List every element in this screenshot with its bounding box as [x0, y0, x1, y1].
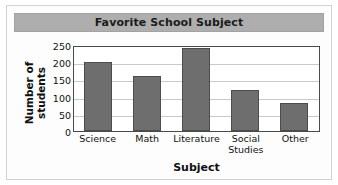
- y-tick-label: 0: [47, 128, 71, 137]
- y-tick-label: 200: [47, 59, 71, 68]
- x-tick-label: Other: [271, 134, 319, 160]
- y-axis-title-line-2: students: [35, 67, 47, 119]
- chart-figure: Favorite School Subject Number of studen…: [6, 5, 332, 180]
- y-tick-label: 250: [47, 42, 71, 51]
- bar: [84, 62, 112, 131]
- x-tick-label: Science: [73, 134, 121, 160]
- bar: [231, 90, 259, 131]
- y-tick-label: 100: [47, 93, 71, 102]
- chart-title-band: Favorite School Subject: [14, 13, 324, 32]
- x-tick-label: Social Studies: [222, 134, 270, 160]
- y-axis-tick-labels: 050100150200250: [47, 46, 71, 132]
- x-axis-title: Subject: [73, 161, 320, 174]
- bar-series: [74, 47, 319, 131]
- y-axis-title: Number of students: [20, 48, 50, 138]
- bar: [182, 48, 210, 131]
- bar-slot: [221, 47, 269, 131]
- y-axis-title-text: Number of students: [23, 62, 47, 124]
- bar-slot: [123, 47, 171, 131]
- bar-slot: [74, 47, 122, 131]
- plot-area: [73, 46, 320, 132]
- y-tick-label: 50: [47, 110, 71, 119]
- bar-slot: [172, 47, 220, 131]
- bar: [133, 76, 161, 131]
- x-axis-tick-labels: ScienceMathLiteratureSocial StudiesOther: [73, 134, 320, 160]
- x-tick-label: Math: [123, 134, 171, 160]
- bar-slot: [270, 47, 318, 131]
- y-axis-title-line-1: Number of: [23, 62, 35, 124]
- bar: [280, 103, 308, 131]
- chart-title: Favorite School Subject: [95, 16, 244, 29]
- x-tick-label: Literature: [172, 134, 220, 160]
- y-tick-label: 150: [47, 76, 71, 85]
